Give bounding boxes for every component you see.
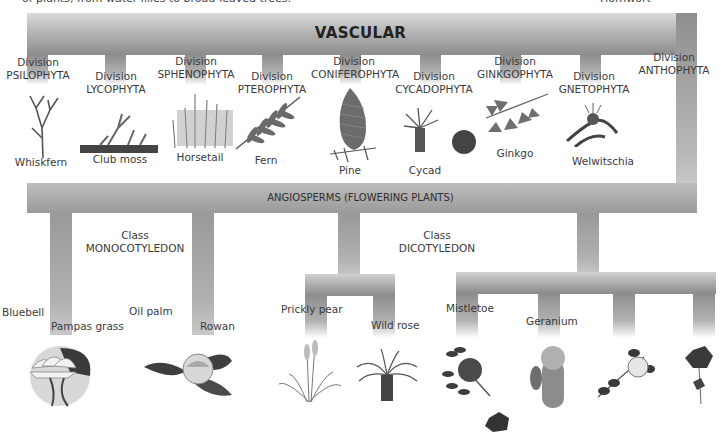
stem-mistletoe xyxy=(456,294,478,338)
horsetail-illustration xyxy=(165,90,237,148)
division-psilophyta: Division PSILOPHYTA xyxy=(0,56,76,82)
stem-monocot-right xyxy=(192,213,214,335)
magnolia-illustration xyxy=(142,345,238,405)
fern-illustration xyxy=(232,93,304,153)
stem-dicot-4 xyxy=(613,294,635,338)
geranium-illustration xyxy=(675,342,721,406)
division-sphenophyta: Division SPHENOPHYTA xyxy=(155,55,237,81)
welwitschia-illustration xyxy=(565,103,625,147)
cycad-illustration xyxy=(398,104,478,156)
pampas-grass-illustration xyxy=(277,340,343,404)
example-whiskfern: Whiskfern xyxy=(10,156,72,169)
class-dicotyledon: Class DICOTYLEDON xyxy=(392,229,482,255)
ginkgo-illustration xyxy=(482,88,552,138)
cactus-illustration xyxy=(528,342,570,410)
stem-monocot-left xyxy=(50,213,72,335)
stem-dicot-5 xyxy=(693,294,715,338)
division-lycophyta: Division LYCOPHYTA xyxy=(80,70,152,96)
hornwort-label: Hornwort xyxy=(600,0,651,5)
division-cycadophyta: Division CYCADOPHYTA xyxy=(394,70,474,96)
example-club-moss: Club moss xyxy=(88,153,152,166)
example-horsetail: Horsetail xyxy=(170,151,230,164)
label-bluebell: Bluebell xyxy=(2,306,44,319)
example-pine: Pine xyxy=(330,164,370,177)
class-monocotyledon: Class MONOCOTYLEDON xyxy=(80,229,190,255)
intro-text: of plants, from water lilies to broad-le… xyxy=(22,0,291,5)
label-rowan: Rowan xyxy=(200,320,235,333)
oil-palm-illustration xyxy=(355,347,421,403)
label-wild-rose: Wild rose xyxy=(371,319,419,332)
division-ginkgophyta: Division GINKGOPHYTA xyxy=(475,55,555,81)
dicot-right-bar xyxy=(456,272,716,294)
rowan-illustration xyxy=(442,346,494,400)
angiosperm-label: ANGIOSPERMS (FLOWERING PLANTS) xyxy=(0,192,721,203)
label-prickly-pear: Prickly pear xyxy=(281,303,343,316)
example-ginkgo: Ginkgo xyxy=(490,147,540,160)
stem-dicot-right xyxy=(577,213,599,275)
dicot-left-bar xyxy=(305,274,395,296)
pine-illustration xyxy=(328,84,378,166)
example-cycad: Cycad xyxy=(400,164,450,177)
label-oil-palm: Oil palm xyxy=(129,305,173,318)
division-anthophyta: Division ANTHOPHYTA xyxy=(634,51,714,77)
water-lily-illustration xyxy=(24,342,96,410)
stem-dicot-center xyxy=(338,213,360,277)
label-geranium: Geranium xyxy=(526,315,578,328)
whiskfern-illustration xyxy=(18,88,68,158)
example-fern: Fern xyxy=(246,154,286,167)
label-pampas-grass: Pampas grass xyxy=(51,320,124,333)
vascular-label: VASCULAR xyxy=(0,24,721,42)
geranium-flower-small-illustration xyxy=(483,412,513,434)
wild-rose-illustration xyxy=(590,345,660,401)
club-moss-illustration xyxy=(78,108,160,158)
division-coniferophyta: Division CONIFEROPHYTA xyxy=(311,55,397,81)
division-gnetophyta: Division GNETOPHYTA xyxy=(555,70,633,96)
example-welwitschia: Welwitschia xyxy=(567,155,639,168)
label-mistletoe: Mistletoe xyxy=(446,302,494,315)
